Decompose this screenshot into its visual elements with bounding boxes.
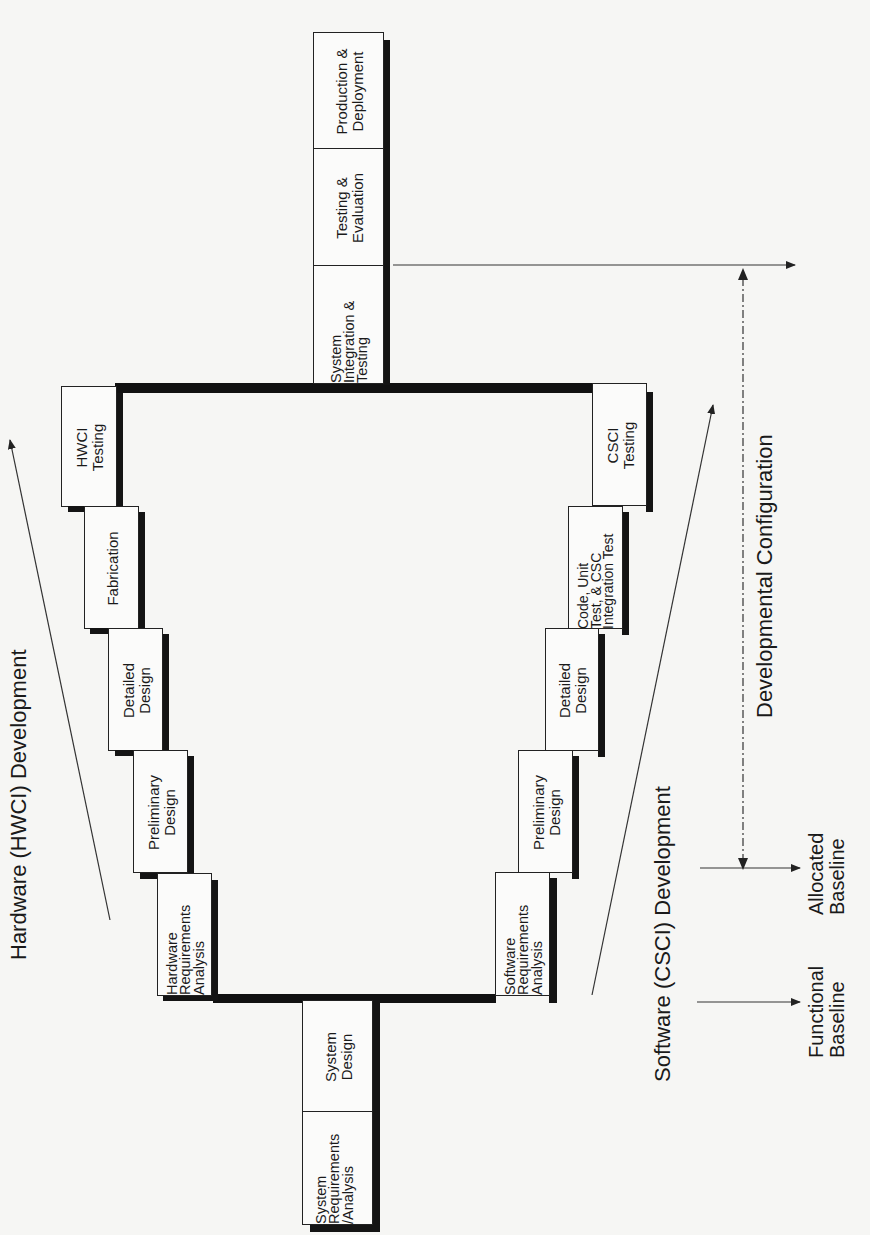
developmental-configuration-label: Developmental Configuration [752,434,778,718]
hardware-development-label: Hardware (HWCI) Development [6,649,32,960]
box-label: Production & [334,49,350,135]
box-label: HWCI [74,428,90,468]
shadow [549,878,557,1003]
functional-baseline-label: Functional Baseline [806,966,848,1058]
box-label: Testing [356,337,369,383]
box-system-requirements-analysis[interactable]: System Requirements /Analysis [302,1111,373,1225]
shadow [622,512,629,635]
box-label: Preliminary [146,775,162,850]
box-label: /Analysis [342,1166,355,1224]
box-label: Design [137,667,153,714]
box-label: Testing & [334,177,350,239]
box-label: Design [547,789,563,836]
top-junction-bar [115,383,593,393]
box-label: Preliminary [531,775,547,850]
box-label: Fabrication [105,531,121,605]
box-label: Design [162,789,178,836]
label-line: Functional [806,966,827,1058]
box-label: Analysis [531,941,544,995]
box-label: Evaluation [350,173,366,243]
box-label: System [323,1032,339,1082]
box-fabrication[interactable]: Fabrication [84,506,139,629]
box-production-deployment[interactable]: Production & Deployment [313,32,384,149]
box-label: Testing [621,422,637,470]
box-sw-preliminary-design[interactable]: Preliminary Design [518,750,573,873]
box-label: Design [573,667,589,714]
box-hw-detailed-design[interactable]: Detailed Design [108,628,163,751]
allocated-baseline-label: Allocated Baseline [806,833,848,915]
shadow [310,1224,380,1232]
box-label: Analysis [193,941,206,995]
box-code-unit-test[interactable]: Code, Unit Test, & CSC Integration Test [568,506,623,629]
box-system-integration-testing[interactable]: System Integration & Testing [313,265,384,384]
shadow [115,750,135,756]
box-label: Design [339,1034,355,1081]
box-label: CSCI [605,428,621,464]
label-line: Baseline [827,966,848,1058]
box-hwci-testing[interactable]: HWCI Testing [61,386,117,507]
shadow [90,628,110,634]
box-system-design[interactable]: System Design [302,1000,373,1112]
box-testing-evaluation[interactable]: Testing & Evaluation [313,148,384,266]
box-label: Detailed [557,663,573,718]
box-label: Integration Test [602,534,615,629]
box-sw-detailed-design[interactable]: Detailed Design [545,628,599,751]
box-csci-testing[interactable]: CSCI Testing [592,383,647,506]
software-development-label: Software (CSCI) Development [650,786,676,1082]
label-line: Baseline [827,833,848,915]
box-hardware-requirements-analysis[interactable]: Hardware Requirements Analysis [157,873,212,996]
shadow [211,880,218,1000]
box-hw-preliminary-design[interactable]: Preliminary Design [133,750,188,873]
label-line: Allocated [806,833,827,915]
box-software-requirements-analysis[interactable]: Software Requirements Analysis [495,872,550,996]
box-label: Testing [90,424,106,472]
box-label: Detailed [121,663,137,718]
box-label: Deployment [350,51,366,131]
